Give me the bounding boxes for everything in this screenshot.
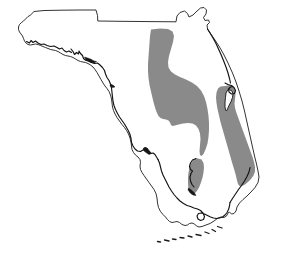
florida-map-svg bbox=[0, 0, 284, 269]
key-islands-7 bbox=[173, 239, 177, 240]
distribution-map-figure bbox=[0, 0, 284, 269]
key-islands-6 bbox=[180, 238, 184, 239]
dry-tortugas-dash bbox=[158, 242, 161, 243]
